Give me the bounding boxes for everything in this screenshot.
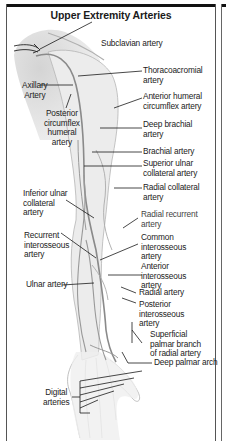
label-superior-ulnar-collateral-artery: Superior ulnar collateral artery xyxy=(143,159,197,178)
label-superficial-palmar-branch: Superficial palmar branch of radial arte… xyxy=(150,330,201,359)
label-radial-recurrent-artery: Radial recurrent artery xyxy=(141,210,198,229)
label-deep-brachial-artery: Deep brachial artery xyxy=(143,120,192,139)
label-axillary-artery: Axillary Artery xyxy=(22,81,48,100)
label-ulnar-artery: Ulnar artery xyxy=(26,280,68,290)
label-radial-collateral-artery: Radial collateral artery xyxy=(143,183,199,202)
label-recurrent-interosseous-artery: Recurrent interosseous artery xyxy=(24,231,69,260)
label-thoracoacromial-artery: Thoracoacromial artery xyxy=(143,66,203,85)
label-inferior-ulnar-collateral-artery: Inferior ulnar collateral artery xyxy=(23,189,67,218)
label-deep-palmar-arch: Deep palmar arch xyxy=(154,358,218,368)
label-posterior-interosseous-artery: Posterior interosseous artery xyxy=(139,300,184,329)
label-common-interosseous-artery: Common interosseous artery xyxy=(141,233,186,262)
label-subclavian-artery: Subclavian artery xyxy=(101,39,163,49)
label-radial-artery: Radial artery xyxy=(139,288,184,298)
label-brachial-artery: Brachial artery xyxy=(143,147,194,157)
label-posterior-circumflex-humeral-artery: Posterior circumflex humeral artery xyxy=(44,109,80,147)
label-digital-arteries: Digital arteries xyxy=(43,388,69,407)
label-anterior-humeral-circumflex-artery: Anterior humeral circumflex artery xyxy=(143,92,202,111)
